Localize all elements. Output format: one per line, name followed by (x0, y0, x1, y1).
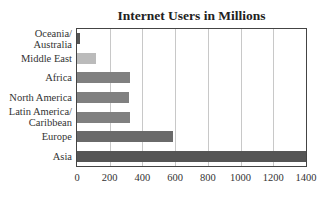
category-label: Latin America/ Caribbean (9, 106, 72, 128)
bar (77, 151, 306, 162)
x-tick-label: 800 (200, 172, 216, 183)
gridline (241, 29, 242, 166)
x-tick-label: 400 (135, 172, 151, 183)
x-tick-label: 1000 (230, 172, 251, 183)
category-label: Asia (53, 151, 72, 162)
gridline (142, 29, 143, 166)
bar (77, 33, 80, 44)
plot-area (76, 28, 307, 167)
category-label: Oceania/ Australia (34, 28, 73, 50)
bar (77, 53, 96, 64)
gridline (208, 29, 209, 166)
x-tick-label: 600 (167, 172, 183, 183)
gridline (175, 29, 176, 166)
x-tick-label: 200 (102, 172, 118, 183)
bar (77, 131, 173, 142)
category-label: Africa (45, 72, 72, 83)
gridline (273, 29, 274, 166)
bar (77, 72, 130, 83)
x-tick-label: 1200 (263, 172, 284, 183)
chart-title: Internet Users in Millions (76, 8, 307, 24)
category-label: North America (9, 92, 72, 103)
bar (77, 112, 130, 123)
x-tick-label: 1400 (296, 172, 317, 183)
x-tick-label: 0 (74, 172, 79, 183)
category-label: Middle East (21, 53, 72, 64)
bar (77, 92, 129, 103)
category-label: Europe (42, 131, 72, 142)
